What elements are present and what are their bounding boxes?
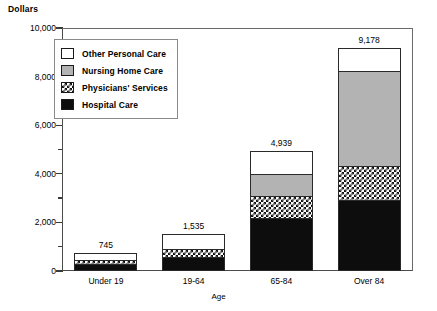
y-tick-label-8000: 8,000 <box>35 72 56 82</box>
y-tick-label-2000: 2,000 <box>35 217 56 227</box>
x-category-label-over-84: Over 84 <box>329 276 409 286</box>
bar-total-label: 4,939 <box>250 138 313 148</box>
bar-total-label: 1,535 <box>162 221 225 231</box>
bar-group-under-19[interactable]: 745 <box>74 253 137 271</box>
bar-segment-nursing-home-care[interactable] <box>339 71 400 166</box>
bar-segment-hospital-care[interactable] <box>339 200 400 270</box>
bar-total-label: 9,178 <box>338 35 401 45</box>
legend-item-physicians-services[interactable]: Physicians' Services <box>61 79 168 96</box>
x-category-label-under-19: Under 19 <box>66 276 146 286</box>
bar-total-label: 745 <box>74 240 137 250</box>
bar-segment-physicians-services[interactable] <box>339 166 400 200</box>
stacked-bar-chart: Dollars 02,0004,0006,0008,00010,000 7451… <box>0 0 437 311</box>
bar-segment-hospital-care[interactable] <box>163 257 224 270</box>
legend-swatch-icon <box>61 65 74 76</box>
x-category-label-19-64: 19-64 <box>154 276 234 286</box>
y-tick-label-4000: 4,000 <box>35 169 56 179</box>
legend-item-label: Hospital Care <box>82 100 138 110</box>
stacked-bar[interactable] <box>74 253 137 271</box>
bar-segment-physicians-services[interactable] <box>251 196 312 218</box>
y-tick-label-6000: 6,000 <box>35 120 56 130</box>
legend-item-other-personal-care[interactable]: Other Personal Care <box>61 45 168 62</box>
x-axis-title: Age <box>0 292 437 301</box>
legend-swatch-icon <box>61 48 74 59</box>
bar-group-over-84[interactable]: 9,178 <box>338 48 401 271</box>
y-tick-label-10000: 10,000 <box>30 23 56 33</box>
x-category-label-65-84: 65-84 <box>241 276 321 286</box>
bar-segment-physicians-services[interactable] <box>163 249 224 257</box>
stacked-bar[interactable] <box>338 48 401 271</box>
legend-swatch-icon <box>61 99 74 110</box>
bar-segment-hospital-care[interactable] <box>251 218 312 270</box>
stacked-bar[interactable] <box>250 151 313 271</box>
y-axis-tick-labels: 02,0004,0006,0008,00010,000 <box>0 0 56 311</box>
bar-segment-other-personal-care[interactable] <box>163 235 224 249</box>
bar-segment-hospital-care[interactable] <box>75 264 136 270</box>
bar-group-65-84[interactable]: 4,939 <box>250 151 313 271</box>
stacked-bar[interactable] <box>162 234 225 271</box>
legend-item-hospital-care[interactable]: Hospital Care <box>61 96 168 113</box>
legend-item-label: Nursing Home Care <box>82 66 163 76</box>
legend-item-nursing-home-care[interactable]: Nursing Home Care <box>61 62 168 79</box>
bar-group-19-64[interactable]: 1,535 <box>162 234 225 271</box>
bar-segment-other-personal-care[interactable] <box>251 152 312 174</box>
legend-item-label: Other Personal Care <box>82 49 166 59</box>
chart-legend: Other Personal CareNursing Home CarePhys… <box>54 39 178 119</box>
legend-swatch-icon <box>61 82 74 93</box>
legend-item-label: Physicians' Services <box>82 83 168 93</box>
bar-segment-nursing-home-care[interactable] <box>251 174 312 197</box>
bar-segment-other-personal-care[interactable] <box>339 49 400 71</box>
